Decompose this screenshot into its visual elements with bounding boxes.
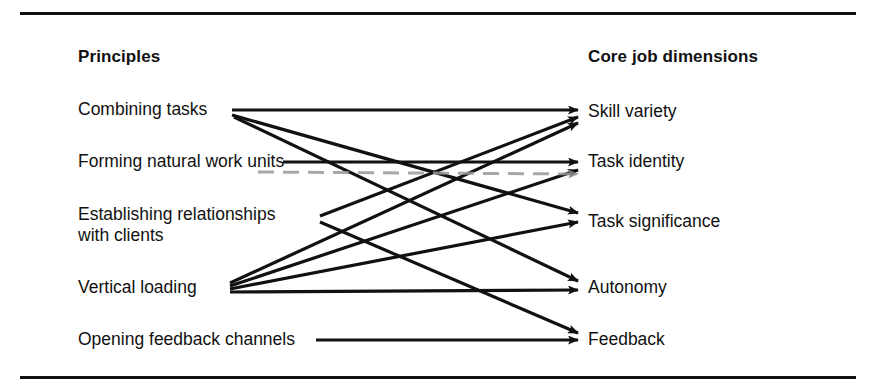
principle-label-opening-feedback-channels: Opening feedback channels [78,329,295,350]
connector-vertical-loading-to-autonomy [230,290,578,292]
dimension-label-feedback: Feedback [588,329,665,350]
connector-establishing-relationships-to-feedback [320,222,578,333]
dimension-label-skill-variety: Skill variety [588,101,677,122]
principle-label-forming-natural-work-units: Forming natural work units [78,151,284,172]
principle-label-vertical-loading: Vertical loading [78,277,197,298]
dimension-label-autonomy: Autonomy [588,277,667,298]
principle-label-establishing-relationships-with-clients: Establishing relationships with clients [78,204,308,246]
principle-label-combining-tasks: Combining tasks [78,99,207,120]
job-design-diagram: Principles Core job dimensions [0,0,876,392]
connector-forming-natural-work-units-to-task-identity-faded [258,172,578,174]
dimension-label-task-identity: Task identity [588,151,684,172]
dimension-label-task-significance: Task significance [588,211,720,232]
